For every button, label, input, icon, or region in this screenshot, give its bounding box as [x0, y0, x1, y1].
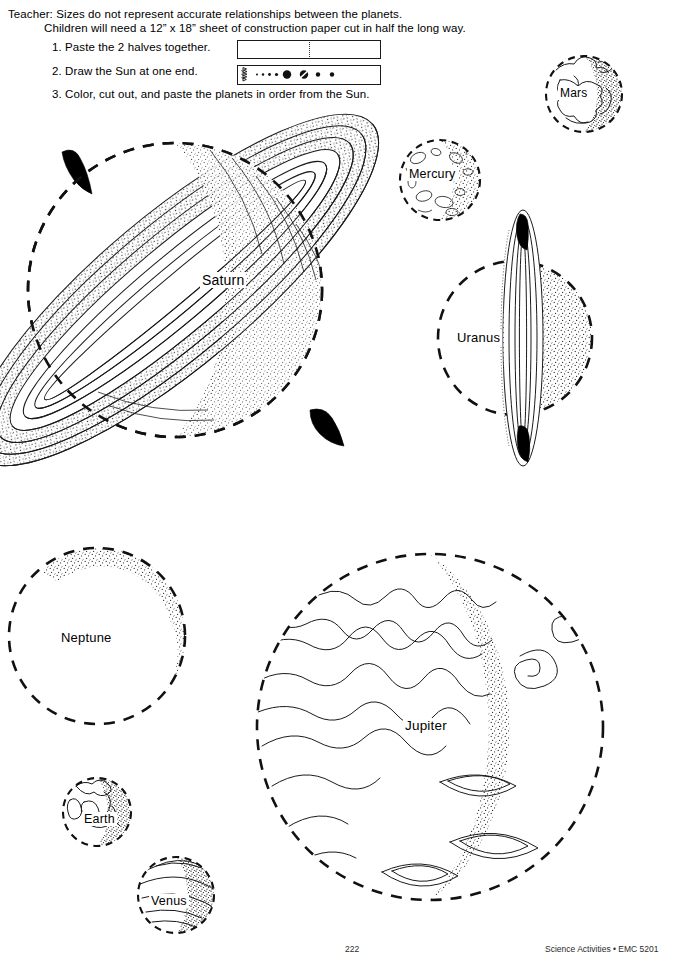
planet-label-neptune: Neptune [59, 630, 114, 645]
footer-credit: Science Activities • EMC 5201 [545, 944, 659, 954]
planet-label-mars: Mars [558, 86, 589, 100]
saturn-ring-tip-upper [62, 150, 92, 194]
planet-label-jupiter: Jupiter [403, 718, 449, 733]
footer-page-number: 222 [345, 944, 359, 954]
planet-label-saturn: Saturn [200, 272, 246, 288]
jupiter-cloud-bands [256, 588, 496, 862]
planet-label-mercury: Mercury [407, 167, 458, 181]
planet-label-uranus: Uranus [455, 330, 502, 345]
saturn-ring-tip-lower [310, 409, 344, 446]
planet-saturn [0, 66, 421, 514]
planet-label-venus: Venus [149, 894, 189, 908]
worksheet-page: Teacher: Sizes do not represent accurate… [0, 0, 688, 956]
planet-label-earth: Earth [82, 812, 117, 826]
